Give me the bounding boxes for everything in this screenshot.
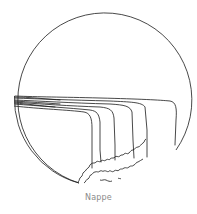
foam-splash xyxy=(78,139,146,183)
diagram-caption: Nappe xyxy=(0,193,197,202)
nappe-illustration xyxy=(0,0,197,214)
water-curtains xyxy=(14,96,176,168)
